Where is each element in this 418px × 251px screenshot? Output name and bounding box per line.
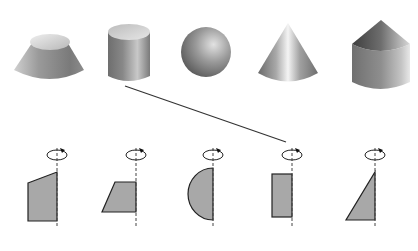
solid-cone [258, 23, 318, 82]
solid-frustum [14, 34, 84, 79]
diagram-canvas [0, 0, 418, 251]
figure-rectangle [272, 148, 302, 226]
figure-semicircle [188, 148, 223, 226]
figure-trapezoid [102, 148, 146, 226]
solid-sphere [181, 27, 231, 77]
solid-cylinder-with-cone [352, 20, 410, 89]
figure-pentagon [28, 148, 67, 226]
connector-line [125, 86, 286, 142]
solid-cylinder [108, 24, 150, 81]
figure-right-triangle [346, 148, 385, 226]
